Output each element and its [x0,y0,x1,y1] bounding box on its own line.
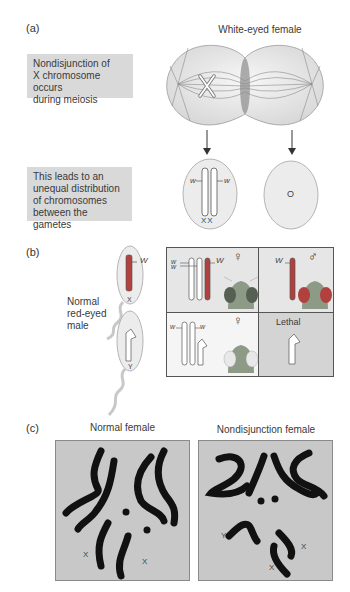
nondisjunction-female-micrograph: Y X X [198,440,333,581]
fly-head-icon [224,345,258,373]
allele-w-right: w [224,176,230,185]
panel-b-label: (b) [26,246,39,258]
karyotype-o: O [287,189,294,199]
panel-c-label: (c) [26,422,39,434]
punnett-drawings [166,247,334,377]
allele-w-left: w [190,176,196,185]
nondisjunction-female-title: Nondisjunction female [197,424,335,435]
panel-a-label: (a) [26,22,39,34]
normal-karyotype-chromosomes [56,441,191,582]
sperm-allele-w: W [140,256,148,265]
sperm-y-label: Y [128,363,133,370]
unequal-distribution-note: This leads to an unequal distribution of… [27,167,132,221]
x-label: X [142,557,147,566]
y-label: Y [221,531,226,540]
note-line: between the gametes [33,207,126,231]
fly-head-icon [298,281,332,309]
fly-head-icon [224,277,258,309]
dividing-cell-diagram [160,36,330,136]
division-arrows [200,130,300,160]
female-symbol: ♀ [233,313,243,328]
normal-female-title: Normal female [55,422,190,433]
note-line: Nondisjunction of [33,58,127,70]
x-label: X [269,563,274,572]
nondisjunction-note: Nondisjunction of X chromosome occurs du… [27,54,133,98]
note-line: of chromosomes [33,195,126,207]
note-line: This leads to an [33,171,126,183]
note-line: unequal distribution [33,183,126,195]
x-label: X [301,542,306,551]
female-symbol: ♀ [233,249,243,264]
lethal-label: Lethal [276,317,301,327]
allele-w-male: W [275,256,283,265]
male-symbol: ♂ [308,249,318,264]
white-eyed-female-title: White-eyed female [200,24,320,35]
allele-w-3: w [170,323,175,330]
allele-w-dominant: W [216,256,224,265]
x-label: X [83,550,88,559]
normal-female-micrograph: X X [55,440,190,581]
nondisjunction-karyotype-chromosomes [199,441,334,582]
allele-w-2: w [171,263,176,270]
sperm-x-label: X [127,296,132,303]
allele-w-4: w [200,323,205,330]
note-line: X chromosome occurs [33,70,127,94]
note-line: during meiosis [33,94,127,106]
karyotype-xx: XX [201,216,214,225]
sperm-cells [95,245,165,420]
